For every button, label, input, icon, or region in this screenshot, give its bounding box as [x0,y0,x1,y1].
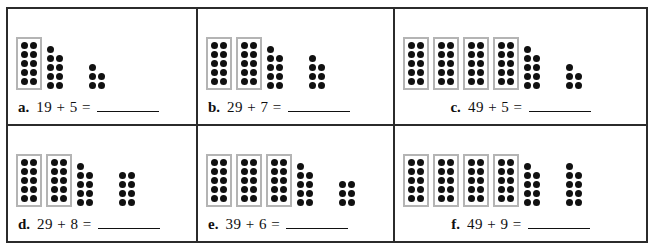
ones-dot [348,199,355,206]
ones-dot [297,199,304,206]
answer-blank-e[interactable] [286,215,348,229]
ten-block-dot [280,168,287,175]
ten-block-dot [60,186,67,193]
worksheet-row-top: a. 19 + 5 = b. 29 + 7 = c. 49 + 5 = [8,9,646,126]
ones-dot [276,64,283,71]
ten-block-dot [438,60,445,67]
answer-blank-a[interactable] [97,98,159,112]
ones-dot [267,82,274,89]
ones-group-first-column-right [532,171,541,207]
ones-group-second [308,54,326,90]
ones-dot [128,172,135,179]
ten-block-dot [250,60,257,67]
ones-dot [267,55,274,62]
ten-block-dot [477,78,484,85]
ten-block-dot-row [210,41,228,50]
ten-block-dot [211,69,218,76]
ten-block-dot [507,186,514,193]
answer-blank-b[interactable] [288,98,350,112]
ten-block-dot [447,195,454,202]
problem-cell-e[interactable]: e. 39 + 6 = [198,126,395,241]
ones-dot [77,181,84,188]
ten-block-dot [211,186,218,193]
ones-dot [348,190,355,197]
ten-block-dot [21,177,28,184]
ones-dot [77,190,84,197]
ones-group-first [523,162,541,207]
ten-block-dot [220,69,227,76]
problem-cell-b[interactable]: b. 29 + 7 = [198,9,395,124]
ten-block-dot-row [210,50,228,59]
ten-block-dot [21,60,28,67]
answer-blank-f[interactable] [528,215,590,229]
ten-block-dot [468,60,475,67]
ones-dot [47,46,54,53]
ten-block-dot [438,159,445,166]
problem-cell-c[interactable]: c. 49 + 5 = [395,9,646,124]
problem-cell-f[interactable]: f. 49 + 9 = [395,126,646,241]
problem-cell-a[interactable]: a. 19 + 5 = [8,9,198,124]
ones-dot [575,172,582,179]
ones-dot [339,181,346,188]
ten-block-dot [438,168,445,175]
ten-block-dot-row [270,194,288,203]
ones-dot [267,64,274,71]
ones-dot [267,73,274,80]
ones-dot [524,55,531,62]
ones-dot [575,181,582,188]
answer-blank-c[interactable] [529,98,591,112]
ten-block-dot [498,60,505,67]
problem-cell-d[interactable]: d. 29 + 8 = [8,126,198,241]
ten-block-dot-row [407,50,425,59]
ten-block-dot [507,51,514,58]
ten-block-dot [250,69,257,76]
ones-dot [77,163,84,170]
ones-dot [309,55,316,62]
ten-block-dot [211,195,218,202]
ten-block-dot [30,78,37,85]
ten-block-dot [241,195,248,202]
ten-block-dot [241,159,248,166]
ten-block-dot-row [497,167,515,176]
ten-block-dot [477,195,484,202]
ones-group-second-column-right [317,63,326,90]
ten-block-1 [16,37,42,90]
ten-block-dot [271,177,278,184]
ten-block-dot-row [497,158,515,167]
ten-block-dot [417,186,424,193]
ten-block-dot-row [240,158,258,167]
ten-block-dot-row [210,194,228,203]
ten-block-dot-row [20,194,38,203]
ten-block-dot [507,168,514,175]
ones-dot [86,190,93,197]
answer-blank-d[interactable] [98,215,160,229]
ten-block-dot [30,69,37,76]
problem-line-f: f. 49 + 9 = [395,215,646,241]
ones-dot [98,82,105,89]
dot-diagram-c [395,9,646,90]
ones-group-second-column-right [347,180,356,207]
ones-dot [306,199,313,206]
ten-block-dot-row [50,185,68,194]
ten-block-dot [30,60,37,67]
ten-block-dot-row [437,185,455,194]
ones-dot [297,172,304,179]
ten-block-dot [447,177,454,184]
ones-dot [524,82,531,89]
ones-group-first-column-right [305,171,314,207]
ones-dot [533,199,540,206]
ten-block-dot [30,168,37,175]
ten-block-dot [211,51,218,58]
ten-block-dot [408,186,415,193]
ten-block-dot-row [407,158,425,167]
ten-block-dot [408,159,415,166]
ten-block-dot [21,69,28,76]
ten-block-dot-row [497,194,515,203]
problem-line-a: a. 19 + 5 = [8,98,196,124]
ten-block-dot-row [407,68,425,77]
ones-dot [89,82,96,89]
ten-block-dot-row [20,41,38,50]
ten-block-dot [408,168,415,175]
ten-block-dot [498,195,505,202]
ten-block-1 [206,154,232,207]
